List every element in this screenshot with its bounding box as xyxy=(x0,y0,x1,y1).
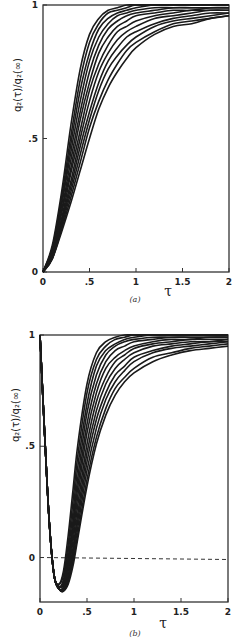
y-tick-label: 0 xyxy=(29,553,35,563)
y-tick-label: 1 xyxy=(29,330,35,340)
y-axis-title: q₂(τ)/q₂(∞) xyxy=(10,388,21,442)
x-tick-label: 2 xyxy=(225,607,231,617)
x-tick-label: 1.5 xyxy=(173,607,189,617)
series-group xyxy=(40,335,228,592)
x-tick-label: 1 xyxy=(131,607,137,617)
x-tick-label: .5 xyxy=(82,607,92,617)
line-chart-b: 0.511.520.51q₂(τ)/q₂(∞)τ(b) xyxy=(0,0,236,644)
y-tick-label: .5 xyxy=(25,441,35,451)
panel-caption: (b) xyxy=(129,629,140,638)
chart-panel-b: 0.511.520.51q₂(τ)/q₂(∞)τ(b) xyxy=(0,0,236,644)
x-axis-title: τ xyxy=(159,615,167,631)
x-tick-label: 0 xyxy=(37,607,43,617)
